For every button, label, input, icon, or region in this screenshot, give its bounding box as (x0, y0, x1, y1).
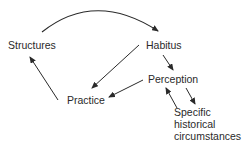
node-specific-line3: circumstances (174, 130, 241, 142)
node-habitus: Habitus (146, 39, 182, 51)
arrow-perception-to-practice (109, 80, 143, 97)
arrow-specific-to-perception (166, 88, 177, 108)
arrow-habitus-to-practice (92, 45, 139, 88)
node-specific-line1: Specific (174, 106, 211, 118)
node-practice: Practice (67, 94, 105, 106)
node-structures: Structures (8, 39, 56, 51)
arrow-habitus-to-perception (163, 55, 173, 70)
arrow-structures-to-habitus (42, 11, 158, 32)
node-perception: Perception (148, 73, 198, 85)
diagram-canvas: Structures Habitus Perception Practice S… (0, 0, 245, 150)
arrow-perception-to-specific (186, 88, 195, 104)
node-specific-line2: historical (174, 118, 215, 130)
arrow-practice-to-structures (30, 57, 58, 100)
